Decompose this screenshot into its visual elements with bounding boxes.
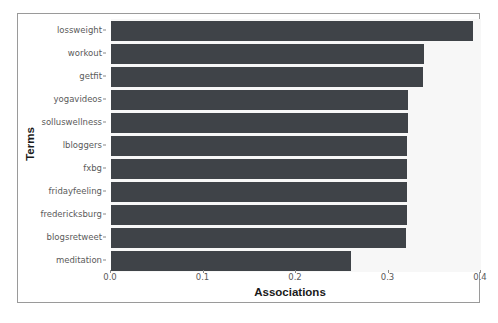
x-tick-label-0.4: 0.4 — [473, 273, 487, 282]
x-tick-mark — [203, 270, 204, 273]
bar-fill — [111, 113, 408, 133]
y-tick-mark — [103, 98, 106, 99]
y-axis-tick-labels: lossweightworkoutgetfityogavideossollusw… — [0, 18, 106, 271]
bar-lossweight — [111, 21, 473, 41]
bar-fill — [111, 251, 351, 271]
y-tick-label-workout: workout — [68, 48, 102, 57]
x-tick-label-0.2: 0.2 — [288, 273, 302, 282]
y-tick-mark — [103, 259, 106, 260]
bar-fill — [111, 21, 473, 41]
y-tick-mark — [103, 75, 106, 76]
bar-fill — [111, 90, 408, 110]
y-tick-label-blogsretweet: blogsretweet — [47, 232, 102, 241]
bar-series — [111, 19, 481, 272]
y-tick-mark — [103, 190, 106, 191]
y-tick-label-yogavideos: yogavideos — [54, 94, 102, 103]
x-tick-label-0.3: 0.3 — [381, 273, 395, 282]
y-axis-title: Terms — [24, 127, 36, 161]
bar-fill — [111, 228, 406, 248]
bar-fxbg — [111, 159, 407, 179]
bar-fill — [111, 136, 407, 156]
y-tick-label-lbloggers: lbloggers — [63, 140, 102, 149]
y-tick-mark — [103, 144, 106, 145]
x-tick-label-0.1: 0.1 — [196, 273, 210, 282]
bar-meditation — [111, 251, 351, 271]
y-tick-label-fridayfeeling: fridayfeeling — [49, 186, 102, 195]
y-tick-mark — [103, 29, 106, 30]
bar-solluswellness — [111, 113, 408, 133]
x-axis-tick-labels: 0.00.10.20.30.4 — [0, 273, 498, 287]
y-tick-mark — [103, 121, 106, 122]
y-tick-mark — [103, 167, 106, 168]
y-tick-mark — [103, 213, 106, 214]
y-tick-mark — [103, 236, 106, 237]
x-tick-mark — [480, 270, 481, 273]
plot-area — [111, 19, 481, 272]
bar-fill — [111, 67, 423, 87]
bar-blogsretweet — [111, 228, 406, 248]
bar-lbloggers — [111, 136, 407, 156]
y-tick-label-fxbg: fxbg — [83, 163, 102, 172]
y-tick-label-fredericksburg: fredericksburg — [40, 209, 102, 218]
y-tick-label-lossweight: lossweight — [57, 25, 102, 34]
bar-yogavideos — [111, 90, 408, 110]
x-tick-mark — [110, 270, 111, 273]
bar-fill — [111, 44, 424, 64]
y-tick-label-solluswellness: solluswellness — [41, 117, 102, 126]
bar-fill — [111, 182, 407, 202]
x-axis-title: Associations — [110, 286, 470, 298]
bar-workout — [111, 44, 424, 64]
x-tick-label-0.0: 0.0 — [103, 273, 117, 282]
y-tick-label-getfit: getfit — [79, 71, 102, 80]
x-tick-mark — [295, 270, 296, 273]
bar-getfit — [111, 67, 423, 87]
y-tick-label-meditation: meditation — [56, 255, 102, 264]
bar-fridayfeeling — [111, 182, 407, 202]
x-tick-mark — [388, 270, 389, 273]
bar-fill — [111, 205, 407, 225]
bar-fill — [111, 159, 407, 179]
y-tick-mark — [103, 52, 106, 53]
bar-fredericksburg — [111, 205, 407, 225]
